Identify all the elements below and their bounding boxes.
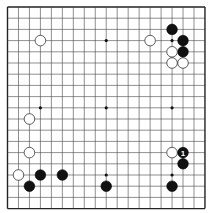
star-point — [105, 39, 108, 42]
white-stone — [24, 147, 35, 158]
star-point — [170, 106, 173, 109]
white-stone — [13, 170, 24, 181]
black-stone: 1 — [178, 147, 189, 158]
move-number-label: 1 — [181, 149, 186, 158]
black-stone — [57, 170, 68, 181]
black-stone — [167, 181, 178, 192]
star-point — [105, 173, 108, 176]
black-stone — [24, 181, 35, 192]
white-stone — [145, 35, 156, 46]
star-point — [39, 106, 42, 109]
white-stone — [167, 58, 178, 69]
black-stone — [178, 47, 189, 58]
black-stone — [167, 24, 178, 35]
white-stone — [167, 47, 178, 58]
white-stone — [35, 35, 46, 46]
white-stone — [167, 147, 178, 158]
star-point — [170, 39, 173, 42]
black-stone — [178, 159, 189, 170]
star-point — [170, 173, 173, 176]
star-point — [105, 106, 108, 109]
white-stone — [24, 114, 35, 125]
black-stone — [101, 181, 112, 192]
white-stone — [178, 58, 189, 69]
go-board[interactable]: 1 — [0, 0, 209, 213]
black-stone — [178, 35, 189, 46]
black-stone — [35, 170, 46, 181]
